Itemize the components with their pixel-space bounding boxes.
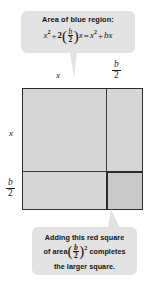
eq-equals: =: [83, 31, 90, 41]
fraction-denominator-left: 2: [6, 188, 15, 199]
callout-top-headline: Area of blue region:: [21, 16, 135, 25]
callout-bottom-fraction-numerator: b: [73, 244, 79, 252]
callout-bottom-exponent: 2: [84, 245, 87, 251]
callout-bottom-line2: of area(b2)2 completes: [32, 244, 137, 260]
outer-square-outline: [22, 88, 143, 210]
callout-bottom-fraction-denominator: 2: [73, 251, 79, 260]
dimension-label-left-x: x: [9, 128, 13, 138]
callout-bottom-tail: [108, 209, 120, 228]
completing-the-square-figure: Area of blue region: x2+2(b2)x=x2+bx x b…: [0, 0, 151, 285]
callout-bottom-paren-close: ): [79, 245, 84, 258]
callout-bottom-line2-prefix: of area: [44, 247, 68, 256]
eq-fraction-denominator: 2: [68, 35, 74, 44]
eq-rhs-plus: +: [97, 31, 104, 41]
fraction-b-over-2-left: b 2: [6, 178, 15, 199]
callout-top-equation: x2+2(b2)x=x2+bx: [44, 28, 113, 44]
callout-bottom-fraction: b2: [73, 244, 79, 260]
eq-rhs-bx: bx: [104, 31, 113, 41]
dimension-label-left-b-over-2: b 2: [6, 178, 15, 200]
fraction-numerator-top: b: [112, 60, 121, 70]
eq-fraction-b-over-2: b2: [68, 28, 74, 44]
fraction-numerator-left: b: [6, 178, 15, 188]
callout-area-of-blue-region: Area of blue region: x2+2(b2)x=x2+bx: [21, 11, 135, 53]
dimension-label-top-x: x: [56, 70, 60, 80]
callout-bottom-line2-suffix: completes: [89, 247, 125, 256]
square-diagram: [22, 88, 143, 210]
eq-paren-close: ): [74, 30, 79, 43]
fraction-b-over-2-top: b 2: [112, 60, 121, 81]
callout-bottom-line3: the larger square.: [32, 263, 137, 271]
callout-top-tail: [70, 52, 77, 78]
callout-adding-red-square: Adding this red square of area(b2)2 comp…: [32, 227, 137, 275]
eq-plus: +: [51, 31, 58, 41]
callout-bottom-line1: Adding this red square: [32, 234, 137, 242]
fraction-denominator-top: 2: [112, 70, 121, 81]
dimension-label-top-b-over-2: b 2: [112, 60, 121, 82]
eq-paren-open: (: [62, 30, 67, 43]
callout-bottom-paren-open: (: [67, 245, 72, 258]
eq-fraction-numerator: b: [68, 28, 74, 36]
